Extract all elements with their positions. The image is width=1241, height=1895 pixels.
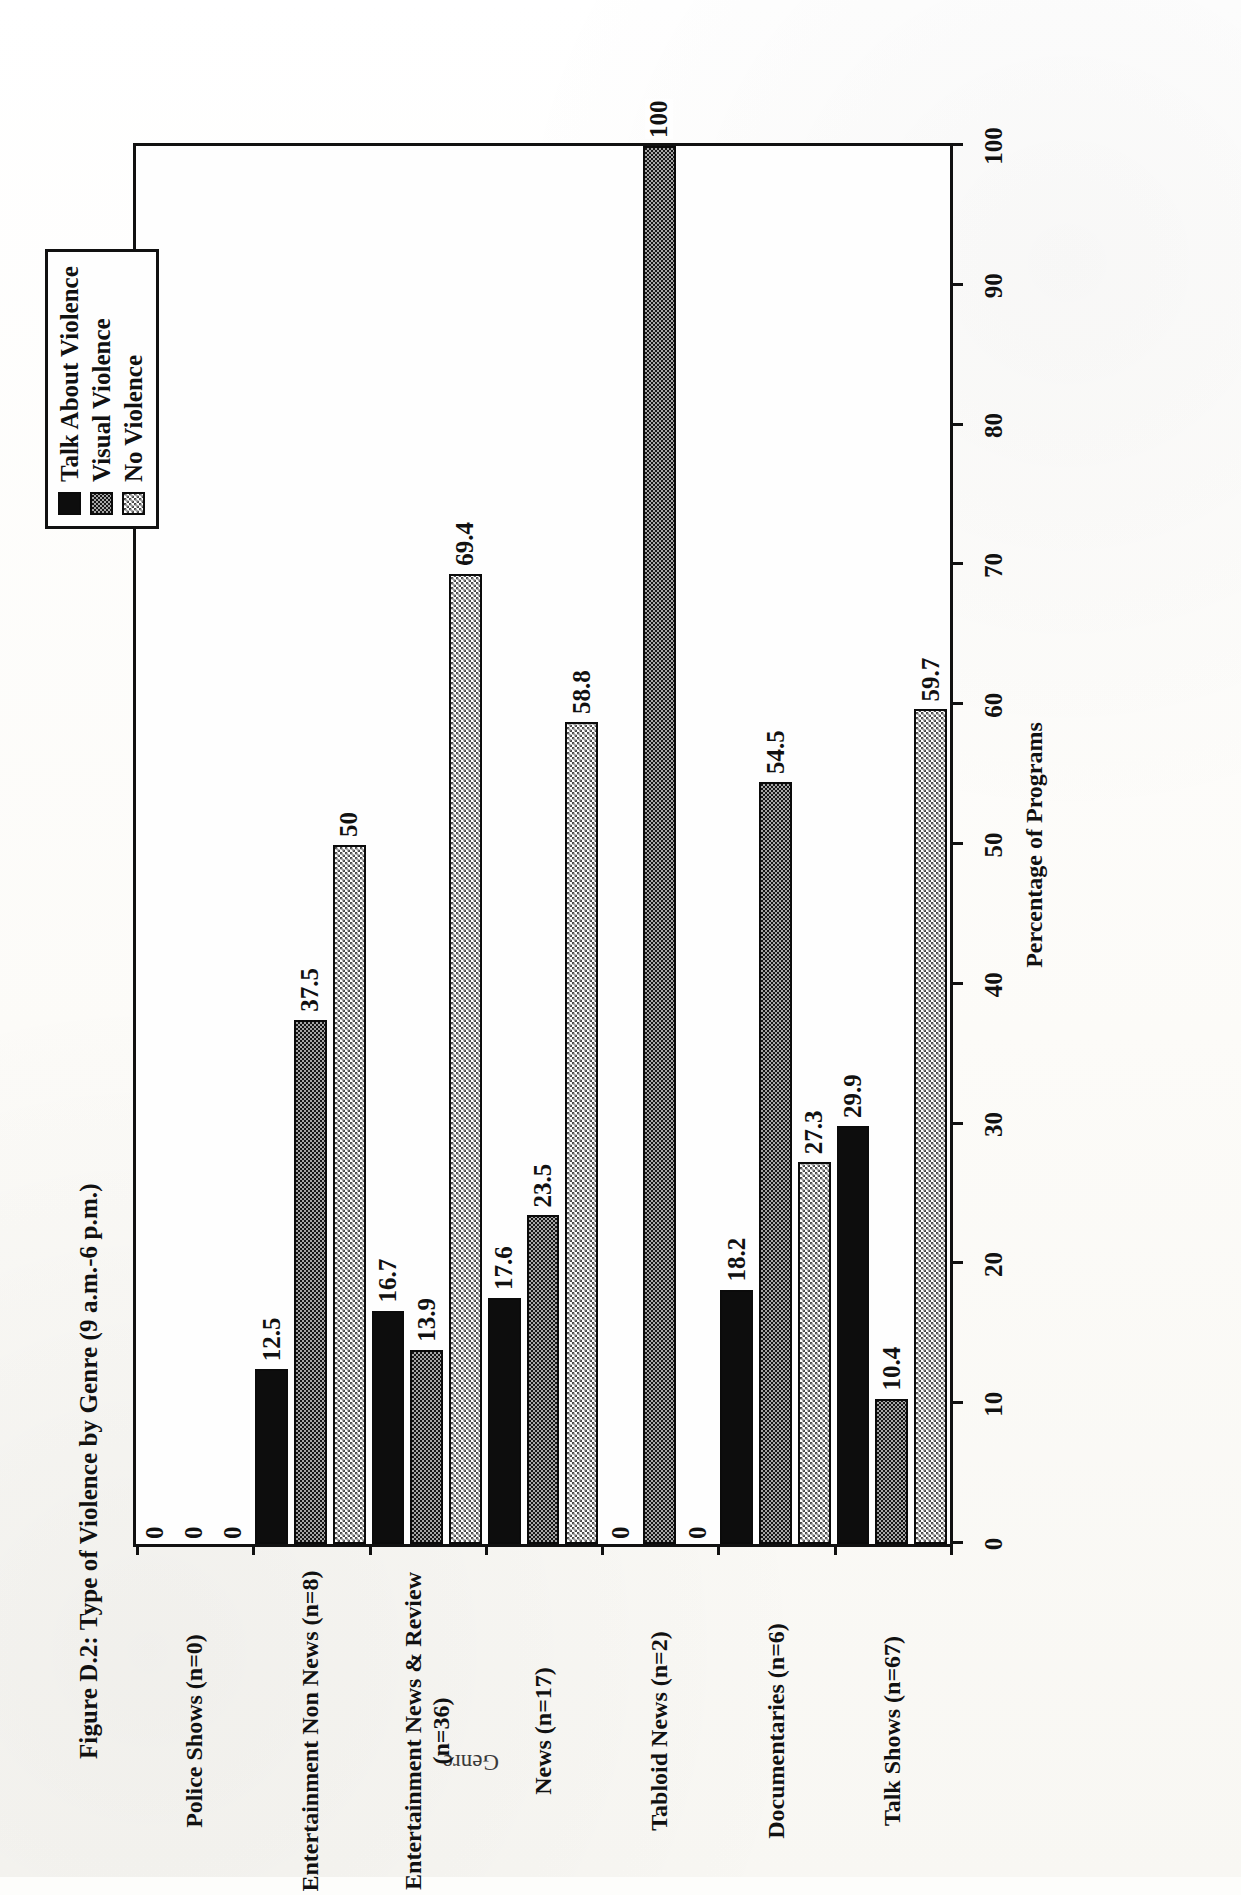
legend-item: No Violence [121,266,146,515]
bar-value-label: 27.3 [800,1109,828,1155]
bar-row: 0 [177,146,210,1544]
legend-item: Talk About Violence [57,266,82,515]
bar-value-label: 13.9 [412,1296,440,1342]
bar-row: 27.3 [797,146,830,1544]
bar-talk-about-violence: 17.6 [487,1297,520,1543]
value-axis-tick [950,981,963,984]
value-axis-tick-label: 20 [980,1251,1008,1276]
value-axis-tick-label: 100 [980,127,1008,165]
bar-value-label: 59.7 [916,656,944,702]
figure-inner: Figure D.2: Type of Violence by Genre (9… [61,59,1181,1819]
category-axis-tick [833,1544,836,1555]
legend-item: Visual Violence [89,266,114,515]
bar-row: 0 [216,146,249,1544]
category-axis-tick [252,1544,255,1555]
value-axis-tick [950,702,963,705]
category-axis-tick [136,1544,139,1555]
bar-value-label: 50 [335,811,363,838]
bar-value-label: 69.4 [451,521,479,567]
value-axis-tick-label: 40 [980,972,1008,997]
plot-area: Police Shows (n=0)000Entertainment Non N… [133,143,953,1547]
category-axis-tick [950,1544,953,1555]
bar-row: 16.7 [371,146,404,1544]
bar-value-label: 18.2 [722,1236,750,1282]
value-axis-tick-label: 10 [980,1391,1008,1416]
category-axis-tick [484,1544,487,1555]
bar-no-violence: 58.8 [565,721,598,1543]
bar-row: 37.5 [294,146,327,1544]
category-axis-label: Police Shows (n=0) [179,1566,207,1895]
category-group: Entertainment Non News (n=8)12.537.550 [252,146,368,1544]
bar-row: 100 [642,146,675,1544]
bar-value-label: 29.9 [839,1073,867,1119]
value-axis-tick [950,143,963,146]
bar-value-label: 0 [218,1525,246,1540]
bar-value-label: 12.5 [257,1316,285,1362]
value-axis-tick [950,422,963,425]
bar-talk-about-violence: 29.9 [836,1126,869,1544]
value-axis-tick-label: 80 [980,413,1008,438]
category-group: Entertainment News & Review (n=36)16.713… [368,146,484,1544]
bar-value-label: 10.4 [877,1345,905,1391]
bar-row: 12.5 [255,146,288,1544]
category-group: Talk Shows (n=67)29.910.459.7 [833,146,949,1544]
chart-legend: Talk About ViolenceVisual ViolenceNo Vio… [45,249,159,529]
bar-row: 0 [681,146,714,1544]
legend-label: No Violence [121,354,146,481]
figure-title: Figure D.2: Type of Violence by Genre (9… [75,639,103,1759]
bar-value-label: 100 [645,99,673,139]
category-axis-tick [601,1544,604,1555]
bar-value-label: 16.7 [373,1257,401,1303]
bar-value-label: 17.6 [490,1245,518,1291]
bar-row: 69.4 [449,146,482,1544]
bar-value-label: 0 [141,1525,169,1540]
category-axis-label: News (n=17) [528,1566,556,1895]
bar-row: 58.8 [565,146,598,1544]
value-axis-tick [950,282,963,285]
category-axis-label: Documentaries (n=6) [761,1566,789,1895]
bar-row: 23.5 [526,146,559,1544]
bar-visual-violence: 23.5 [526,1215,559,1544]
bar-value-label: 0 [180,1525,208,1540]
legend-label: Visual Violence [89,318,114,482]
category-group: News (n=17)17.623.558.8 [484,146,600,1544]
category-axis-label: Tabloid News (n=2) [645,1566,673,1895]
bar-no-violence: 69.4 [449,573,482,1543]
bar-visual-violence: 37.5 [294,1019,327,1543]
legend-label: Talk About Violence [57,266,82,482]
value-axis-tick [950,1261,963,1264]
value-axis-tick-label: 90 [980,273,1008,298]
bar-value-label: 23.5 [528,1162,556,1208]
value-axis-tick [950,1541,963,1544]
bar-row: 0 [604,146,637,1544]
bar-value-label: 0 [606,1525,634,1540]
category-group: Documentaries (n=6)18.254.527.3 [717,146,833,1544]
bar-value-label: 0 [684,1525,712,1540]
category-axis-tick [717,1544,720,1555]
bar-row: 50 [332,146,365,1544]
bar-visual-violence: 10.4 [875,1398,908,1543]
value-axis-tick-label: 50 [980,832,1008,857]
bar-row: 17.6 [487,146,520,1544]
legend-swatch-icon [122,492,145,515]
bar-value-label: 37.5 [296,967,324,1013]
bar-no-violence: 50 [332,845,365,1544]
value-axis-tick [950,842,963,845]
bar-row: 59.7 [914,146,947,1544]
bar-visual-violence: 100 [642,146,675,1544]
value-axis-tick-label: 0 [980,1537,1008,1550]
bar-row: 54.5 [759,146,792,1544]
value-axis-tick-label: 70 [980,552,1008,577]
bar-talk-about-violence: 12.5 [255,1369,288,1544]
bar-value-label: 58.8 [567,669,595,715]
rotated-figure-container: Figure D.2: Type of Violence by Genre (9… [61,59,1181,1819]
value-axis-tick [950,1121,963,1124]
bar-visual-violence: 54.5 [759,782,792,1544]
legend-swatch-icon [90,492,113,515]
value-axis-title: Percentage of Programs [1021,143,1048,1547]
bar-value-label: 54.5 [761,729,789,775]
bar-row: 18.2 [720,146,753,1544]
bar-no-violence: 27.3 [797,1162,830,1544]
category-axis-label: Entertainment News & Review (n=36) [398,1566,455,1895]
bar-row: 29.9 [836,146,869,1544]
